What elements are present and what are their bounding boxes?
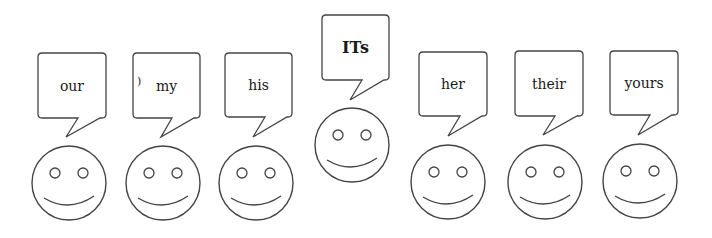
figure-yours: yours <box>603 51 678 218</box>
smiley-face-icon <box>603 144 677 218</box>
bubble-label: their <box>532 76 566 92</box>
speech-bubble <box>38 53 106 137</box>
smiley-face-icon <box>126 146 200 220</box>
smiley-face-icon <box>508 145 582 219</box>
bubble-label: our <box>60 78 84 94</box>
smiley-face-icon <box>315 108 389 182</box>
figure-their: their <box>508 51 583 219</box>
smiley-face-icon <box>32 146 106 220</box>
speech-bubble <box>322 15 389 100</box>
speech-bubble <box>419 52 487 136</box>
smiley-face-icon <box>411 145 485 219</box>
bubble-label: yours <box>623 75 663 91</box>
figure-its: ITs <box>315 15 389 182</box>
figure-my: my) <box>126 53 200 220</box>
speech-bubble <box>515 51 583 135</box>
bubble-label: ITs <box>342 38 369 57</box>
speech-bubble <box>133 53 200 137</box>
figure-our: our <box>32 53 106 220</box>
speech-bubble <box>225 53 292 137</box>
figure-her: her <box>411 52 487 219</box>
diagram-canvas: ourmy)hisITshertheiryours <box>0 0 712 238</box>
pronoun-speech-diagram: ourmy)hisITshertheiryours <box>0 0 712 238</box>
speech-bubble <box>610 51 678 135</box>
bubble-label: her <box>441 76 465 92</box>
bubble-label: his <box>248 77 269 93</box>
figure-his: his <box>219 53 293 220</box>
smiley-face-icon <box>219 146 293 220</box>
stray-mark: ) <box>137 75 141 88</box>
bubble-label: my <box>156 78 177 94</box>
